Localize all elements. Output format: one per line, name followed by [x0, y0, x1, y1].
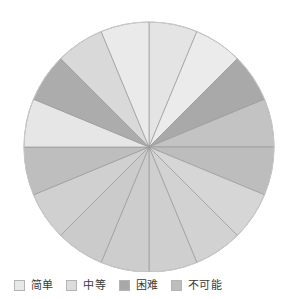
- legend-swatch-icon-2: [119, 280, 130, 291]
- legend-swatch-icon-1: [66, 280, 77, 291]
- legend-item-2[interactable]: 困难: [119, 280, 158, 291]
- legend-swatch-icon-3: [171, 280, 182, 291]
- chart-legend: 简单 中等 困难 不可能: [0, 272, 299, 299]
- legend-item-1[interactable]: 中等: [66, 280, 105, 291]
- legend-item-3[interactable]: 不可能: [171, 280, 222, 291]
- legend-label-1: 中等: [83, 280, 105, 291]
- pie-chart-svg: [0, 0, 299, 272]
- legend-label-0: 简单: [31, 280, 53, 291]
- legend-label-2: 困难: [136, 280, 158, 291]
- pie-chart-page: 简单 中等 困难 不可能: [0, 0, 299, 299]
- legend-swatch-icon-0: [14, 280, 25, 291]
- legend-item-0[interactable]: 简单: [14, 280, 53, 291]
- legend-label-3: 不可能: [188, 280, 222, 291]
- pie-slice-group: [24, 22, 274, 272]
- pie-chart-area: [0, 0, 299, 272]
